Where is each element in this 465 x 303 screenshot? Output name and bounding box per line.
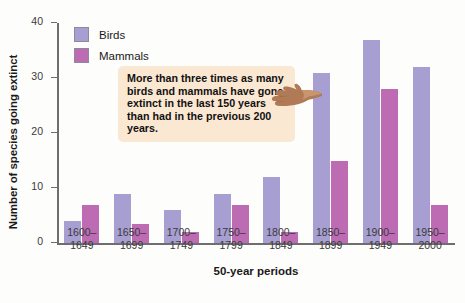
x-axis-tick-label: 1950–2000 xyxy=(405,226,455,251)
annotation-text: More than three times as many birds and … xyxy=(127,72,287,135)
legend-label: Birds xyxy=(99,29,125,41)
bar-birds xyxy=(413,67,430,243)
extinction-bar-chart: Number of species going extinct 01020304… xyxy=(0,0,465,303)
y-axis-tick-label: 30 xyxy=(31,70,43,82)
y-axis-tick-label: 10 xyxy=(31,180,43,192)
x-axis-tick-label: 1900–1949 xyxy=(356,226,406,251)
legend-item-mammals[interactable]: Mammals xyxy=(74,45,149,66)
x-axis-tick-label: 1800–1849 xyxy=(256,226,306,251)
chart-legend: BirdsMammals xyxy=(74,24,149,66)
bar-group xyxy=(306,23,356,243)
bar-mammals xyxy=(381,89,398,243)
x-axis-tick-label: 1850–1899 xyxy=(306,226,356,251)
bar-group xyxy=(405,23,455,243)
bar-birds xyxy=(363,40,380,244)
x-axis-tick-label: 1700–1749 xyxy=(157,226,207,251)
x-axis-tick-label: 1600–1649 xyxy=(57,226,107,251)
x-axis-tick-label: 1650–1699 xyxy=(107,226,157,251)
y-axis-title: Number of species going extinct xyxy=(2,17,24,267)
legend-swatch-birds xyxy=(74,27,89,42)
legend-item-birds[interactable]: Birds xyxy=(74,24,149,45)
x-axis-tick-label: 1750–1799 xyxy=(206,226,256,251)
x-axis-title: 50-year periods xyxy=(57,265,455,277)
pointing-hand-icon xyxy=(268,76,324,112)
y-axis-tick-label: 0 xyxy=(37,235,43,247)
legend-label: Mammals xyxy=(99,50,149,62)
legend-swatch-mammals xyxy=(74,48,89,63)
y-axis-tick-label: 40 xyxy=(31,15,43,27)
y-axis-tick-label: 20 xyxy=(31,125,43,137)
bar-group xyxy=(356,23,406,243)
